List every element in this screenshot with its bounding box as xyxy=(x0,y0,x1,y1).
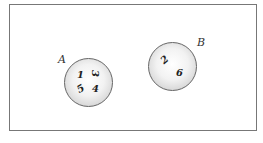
set-a-circle xyxy=(64,58,113,107)
set-b-element: 6 xyxy=(176,67,183,78)
universal-set-frame xyxy=(9,4,257,131)
set-a-element: 4 xyxy=(92,83,99,94)
set-a-label: A xyxy=(58,53,66,66)
set-a-element: 3 xyxy=(90,70,101,77)
set-a-element: 1 xyxy=(77,69,84,80)
set-b-circle xyxy=(148,42,197,91)
set-b-label: B xyxy=(197,36,205,49)
